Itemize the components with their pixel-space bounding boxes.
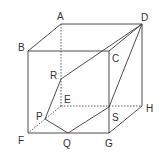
section-polygon-DRPQS	[45, 24, 142, 133]
label-C: C	[112, 53, 119, 64]
label-D: D	[141, 12, 148, 23]
label-H: H	[146, 103, 153, 114]
label-R: R	[50, 70, 57, 81]
label-P: P	[36, 111, 43, 122]
label-F: F	[18, 135, 24, 146]
label-E: E	[64, 94, 71, 105]
hidden-edges	[28, 24, 142, 133]
label-B: B	[18, 42, 25, 53]
label-A: A	[57, 11, 64, 22]
label-S: S	[112, 112, 119, 123]
label-Q: Q	[63, 138, 71, 149]
edge-AB	[28, 24, 61, 51]
label-G: G	[105, 138, 113, 149]
visible-edges	[28, 24, 142, 133]
edge-EF	[28, 106, 61, 133]
cube-diagram: A B C D E F G H P Q R S	[0, 0, 162, 155]
